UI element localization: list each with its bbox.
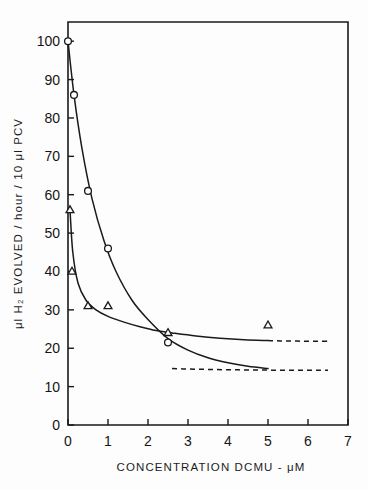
y-tick-label-70: 70 (44, 148, 60, 164)
triangle-series-marker-3 (104, 302, 112, 309)
y-tick-label-60: 60 (44, 187, 60, 203)
x-tick-label-1: 1 (104, 433, 112, 449)
y-tick-label-0: 0 (52, 417, 60, 433)
y-tick-label-40: 40 (44, 263, 60, 279)
x-tick-label-7: 7 (344, 433, 352, 449)
circle-series-marker-0 (65, 38, 72, 45)
circle-series-dashed-extension (172, 369, 328, 371)
y-tick-label-30: 30 (44, 302, 60, 318)
figure-container: 012345670102030405060708090100CONCENTRAT… (0, 0, 368, 490)
y-tick-label-20: 20 (44, 340, 60, 356)
circle-series-marker-2 (85, 187, 92, 194)
y-tick-label-90: 90 (44, 72, 60, 88)
circle-series-curve (68, 41, 268, 368)
triangle-series-marker-5 (264, 321, 272, 328)
triangle-series-dashed-extension (268, 341, 328, 342)
y-tick-label-10: 10 (44, 379, 60, 395)
x-tick-label-4: 4 (224, 433, 232, 449)
y-axis-title: μl H₂ EVOLVED / hour / 10 μl PCV (12, 118, 24, 329)
x-tick-label-5: 5 (264, 433, 272, 449)
x-tick-label-6: 6 (304, 433, 312, 449)
circle-series-marker-4 (165, 339, 172, 346)
y-tick-label-100: 100 (37, 33, 61, 49)
chart-canvas: 012345670102030405060708090100CONCENTRAT… (0, 0, 368, 490)
y-tick-label-50: 50 (44, 225, 60, 241)
circle-series-marker-3 (105, 245, 112, 252)
y-tick-label-80: 80 (44, 110, 60, 126)
x-tick-label-3: 3 (184, 433, 192, 449)
x-axis-title: CONCENTRATION DCMU - μM (117, 461, 306, 473)
x-tick-label-0: 0 (64, 433, 72, 449)
x-tick-label-2: 2 (144, 433, 152, 449)
circle-series-marker-1 (71, 92, 78, 99)
plot-frame (68, 22, 348, 425)
